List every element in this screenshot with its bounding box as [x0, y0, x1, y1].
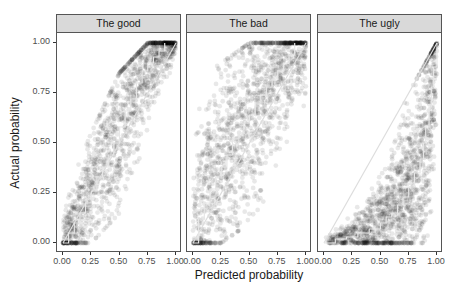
y-tick-label: 1.00 — [0, 36, 50, 46]
x-tick-mark — [220, 252, 221, 255]
x-tick-label: 0.50 — [365, 256, 395, 266]
x-tick-mark — [323, 252, 324, 255]
x-tick-label: 0.00 — [47, 256, 77, 266]
x-tick-mark — [351, 252, 352, 255]
x-tick-mark — [62, 252, 63, 255]
x-tick-label: 1.00 — [421, 256, 451, 266]
panel-ugly — [317, 32, 442, 252]
x-tick-label: 0.50 — [104, 256, 134, 266]
x-tick-mark — [175, 252, 176, 255]
x-tick-mark — [147, 252, 148, 255]
x-tick-mark — [305, 252, 306, 255]
x-tick-label: 0.75 — [132, 256, 162, 266]
x-axis-label: Predicted probability — [56, 268, 442, 282]
x-tick-label: 0.75 — [262, 256, 292, 266]
scatter-points — [324, 41, 440, 246]
y-tick-label: 0.00 — [0, 236, 50, 246]
panel-bad — [186, 32, 311, 252]
x-tick-mark — [119, 252, 120, 255]
x-tick-mark — [277, 252, 278, 255]
plot-bad — [187, 33, 311, 252]
x-tick-mark — [408, 252, 409, 255]
panel-title-ugly: The ugly — [317, 14, 442, 33]
panel-title-good: The good — [56, 14, 181, 33]
plot-ugly — [318, 33, 442, 252]
x-tick-mark — [436, 252, 437, 255]
x-tick-label: 0.75 — [393, 256, 423, 266]
x-tick-label: 0.25 — [75, 256, 105, 266]
x-tick-label: 0.25 — [336, 256, 366, 266]
x-tick-label: 0.25 — [205, 256, 235, 266]
x-tick-label: 0.00 — [177, 256, 207, 266]
x-tick-mark — [249, 252, 250, 255]
y-tick-label: 0.25 — [0, 186, 50, 196]
plot-good — [57, 33, 181, 252]
x-tick-label: 0.00 — [308, 256, 338, 266]
x-tick-label: 0.50 — [234, 256, 264, 266]
y-tick-label: 0.75 — [0, 86, 50, 96]
x-tick-mark — [380, 252, 381, 255]
x-tick-mark — [192, 252, 193, 255]
y-tick-label: 0.50 — [0, 136, 50, 146]
panel-good — [56, 32, 181, 252]
panel-title-bad: The bad — [186, 14, 311, 33]
x-tick-mark — [90, 252, 91, 255]
